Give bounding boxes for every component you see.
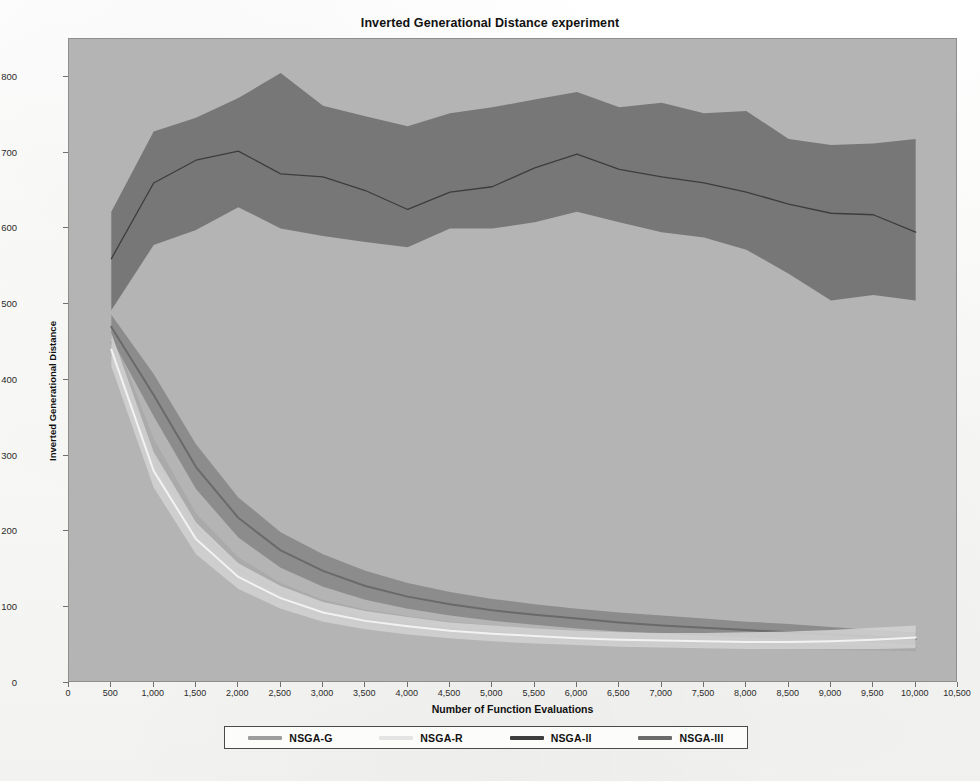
x-axis-tick-mark	[280, 682, 281, 687]
x-axis-tick-label: 1,500	[184, 688, 207, 698]
legend-label: NSGA-R	[420, 732, 463, 744]
y-axis-tick-label: 300	[1, 449, 17, 460]
x-axis-tick-mark	[788, 682, 789, 687]
y-axis-tick-label: 800	[1, 70, 17, 81]
mean-line-nsga-iii	[111, 327, 915, 639]
x-axis-tick-mark	[195, 682, 196, 687]
legend-entry-nsga-g[interactable]: NSGA-G	[248, 732, 332, 744]
x-axis-tick-mark	[745, 682, 746, 687]
x-axis-tick-label: 6,000	[565, 688, 588, 698]
legend-entry-nsga-ii[interactable]: NSGA-II	[510, 732, 592, 744]
legend-label: NSGA-III	[679, 732, 723, 744]
x-axis-tick-label: 5,000	[480, 688, 503, 698]
legend-label: NSGA-II	[551, 732, 592, 744]
x-axis-tick-mark	[703, 682, 704, 687]
x-axis-tick-mark	[661, 682, 662, 687]
plot-area	[68, 38, 957, 682]
x-axis-tick-label: 3,000	[311, 688, 334, 698]
chart-legend: NSGA-GNSGA-RNSGA-IINSGA-III	[224, 726, 748, 749]
x-axis-tick-mark	[153, 682, 154, 687]
x-axis-tick-label: 8,500	[776, 688, 799, 698]
confidence-band-nsga-ii	[111, 73, 915, 310]
x-axis-tick-mark	[830, 682, 831, 687]
x-axis-tick-mark	[364, 682, 365, 687]
x-axis-tick-mark	[576, 682, 577, 687]
x-axis-tick-mark	[68, 682, 69, 687]
plot-svg	[69, 39, 957, 682]
x-axis-tick-label: 0	[65, 688, 70, 698]
x-axis-tick-mark	[534, 682, 535, 687]
legend-entry-nsga-iii[interactable]: NSGA-III	[638, 732, 723, 744]
y-axis-tick-label: 500	[1, 298, 17, 309]
x-axis-tick-mark	[872, 682, 873, 687]
y-axis-tick-label: 200	[1, 525, 17, 536]
x-axis-tick-label: 3,500	[353, 688, 376, 698]
x-axis-tick-label: 10,000	[901, 688, 929, 698]
x-axis-tick-label: 9,500	[861, 688, 884, 698]
y-axis-title: Inverted Generational Distance	[47, 281, 58, 501]
legend-swatch-icon	[638, 736, 672, 740]
confidence-band-nsga-iii	[111, 315, 915, 645]
chart-figure: Inverted Generational Distance experimen…	[0, 0, 980, 781]
y-axis-tick-label: 100	[1, 601, 17, 612]
x-axis-tick-label: 5,500	[522, 688, 545, 698]
x-axis-tick-label: 10,500	[943, 688, 971, 698]
x-axis-tick-mark	[915, 682, 916, 687]
x-axis-tick-label: 500	[103, 688, 118, 698]
x-axis-tick-label: 8,000	[734, 688, 757, 698]
x-axis-tick-mark	[110, 682, 111, 687]
legend-swatch-icon	[248, 736, 282, 740]
x-axis-tick-label: 2,000	[226, 688, 249, 698]
legend-label: NSGA-G	[289, 732, 332, 744]
x-axis-tick-mark	[449, 682, 450, 687]
x-axis-tick-mark	[618, 682, 619, 687]
chart-title: Inverted Generational Distance experimen…	[0, 16, 980, 30]
x-axis-tick-label: 6,500	[607, 688, 630, 698]
y-axis-title-wrapper: Inverted Generational Distance	[26, 0, 42, 781]
x-axis-tick-label: 4,000	[395, 688, 418, 698]
legend-swatch-icon	[379, 736, 413, 740]
legend-entry-nsga-r[interactable]: NSGA-R	[379, 732, 463, 744]
x-axis-tick-mark	[237, 682, 238, 687]
x-axis-tick-label: 4,500	[438, 688, 461, 698]
x-axis-tick-label: 7,000	[649, 688, 672, 698]
x-axis-title: Number of Function Evaluations	[68, 703, 957, 715]
x-axis-tick-mark	[407, 682, 408, 687]
x-axis-tick-mark	[957, 682, 958, 687]
x-axis-tick-label: 9,000	[819, 688, 842, 698]
y-axis-tick-label: 0	[12, 677, 17, 688]
x-axis-tick-label: 1,000	[141, 688, 164, 698]
x-axis-tick-mark	[322, 682, 323, 687]
y-axis-tick-label: 600	[1, 222, 17, 233]
x-axis-tick-label: 2,500	[268, 688, 291, 698]
y-axis-tick-label: 400	[1, 373, 17, 384]
series-nsga-ii	[111, 73, 915, 310]
x-axis-tick-label: 7,500	[692, 688, 715, 698]
series-nsga-iii	[111, 315, 915, 645]
x-axis-tick-mark	[491, 682, 492, 687]
legend-swatch-icon	[510, 736, 544, 740]
y-axis-tick-label: 700	[1, 146, 17, 157]
